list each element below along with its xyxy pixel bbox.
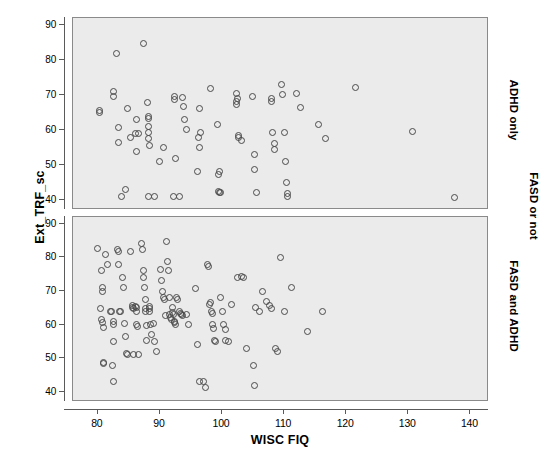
data-point — [297, 104, 304, 111]
data-point — [100, 324, 107, 331]
y-axis-tick-label: 40 — [26, 193, 56, 204]
data-point — [238, 137, 245, 144]
data-point — [293, 90, 300, 97]
data-point — [104, 261, 111, 268]
data-point — [160, 144, 167, 151]
y-axis-tick — [59, 164, 64, 165]
data-point — [115, 139, 122, 146]
y-axis-tick — [59, 129, 64, 130]
data-point — [127, 248, 134, 255]
data-point — [171, 96, 178, 103]
data-point — [259, 288, 266, 295]
data-point — [194, 341, 201, 348]
data-point — [134, 323, 141, 330]
data-point — [180, 103, 187, 110]
data-point — [288, 284, 295, 291]
data-point — [183, 311, 190, 318]
panel-fasd-and-adhd — [72, 216, 488, 401]
y-axis-tick-label: 70 — [26, 88, 56, 99]
data-point — [124, 105, 131, 112]
data-point — [210, 325, 217, 332]
data-point — [195, 134, 202, 141]
y-axis-tick — [59, 94, 64, 95]
data-point — [165, 267, 172, 274]
data-point — [115, 261, 122, 268]
data-point — [278, 81, 285, 88]
data-point — [219, 308, 226, 315]
data-point — [110, 378, 117, 385]
data-point — [249, 93, 256, 100]
data-point — [140, 274, 147, 281]
data-point — [451, 194, 458, 201]
x-axis-tick-label: 130 — [387, 417, 427, 429]
data-point — [121, 320, 128, 327]
data-point — [222, 326, 229, 333]
data-point — [110, 321, 117, 328]
y-axis-tick-label: 80 — [26, 53, 56, 64]
data-point — [117, 308, 124, 315]
data-point — [194, 168, 201, 175]
data-point — [110, 93, 117, 100]
y-axis-tick — [59, 59, 64, 60]
data-point — [225, 338, 232, 345]
x-axis-tick — [469, 409, 470, 414]
data-point — [102, 251, 109, 258]
x-axis-tick — [345, 409, 346, 414]
data-point — [166, 294, 173, 301]
data-point — [253, 189, 260, 196]
data-point — [163, 238, 170, 245]
data-point — [144, 99, 151, 106]
data-point — [133, 148, 140, 155]
x-axis-tick — [283, 409, 284, 414]
data-point — [157, 266, 164, 273]
data-point — [216, 168, 223, 175]
x-axis-tick-label: 110 — [263, 417, 303, 429]
y-axis-tick-label: 80 — [26, 251, 56, 262]
data-point — [279, 91, 286, 98]
data-point — [119, 274, 126, 281]
x-axis-tick-label: 90 — [139, 417, 179, 429]
data-point — [281, 129, 288, 136]
y-axis-tick — [59, 290, 64, 291]
data-point — [251, 151, 258, 158]
data-point — [352, 84, 359, 91]
data-point — [271, 146, 278, 153]
data-point — [172, 155, 179, 162]
data-point — [140, 267, 147, 274]
data-point — [146, 308, 153, 315]
panel-adhd-only — [72, 17, 488, 209]
y-axis-tick-label: 60 — [26, 318, 56, 329]
data-point — [192, 285, 199, 292]
data-point — [251, 382, 258, 389]
data-point — [217, 294, 224, 301]
x-axis-title: WISC FIQ — [72, 433, 488, 447]
data-point — [277, 254, 284, 261]
data-point — [281, 308, 288, 315]
data-point — [214, 121, 221, 128]
y-axis-tick-label: 90 — [26, 18, 56, 29]
data-point — [274, 348, 281, 355]
axis-spine — [64, 216, 65, 401]
data-point — [315, 121, 322, 128]
data-point — [319, 308, 326, 315]
x-axis-tick-label: 140 — [449, 417, 489, 429]
data-point — [115, 124, 122, 131]
data-point — [209, 310, 216, 317]
data-point — [164, 258, 171, 265]
x-axis-tick-label: 80 — [77, 417, 117, 429]
scatter-points-bottom — [73, 217, 487, 400]
data-point — [109, 362, 116, 369]
y-axis-tick-label: 70 — [26, 285, 56, 296]
data-point — [98, 267, 105, 274]
data-point — [283, 179, 290, 186]
data-point — [181, 116, 188, 123]
x-axis-tick-label: 120 — [325, 417, 365, 429]
y-axis-tick — [59, 256, 64, 257]
data-point — [146, 142, 153, 149]
data-point — [284, 193, 291, 200]
y-axis-tick-label: 90 — [26, 217, 56, 228]
data-point — [97, 305, 104, 312]
data-point — [153, 348, 160, 355]
data-point — [233, 101, 240, 108]
data-point — [99, 288, 106, 295]
